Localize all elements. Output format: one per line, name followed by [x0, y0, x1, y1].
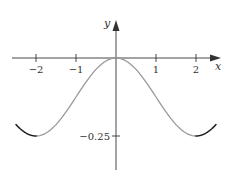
x-tick-label: 1 — [153, 64, 159, 75]
x-axis-label: x — [215, 60, 222, 73]
series-curve-right-end — [196, 125, 216, 136]
y-axis-arrow-icon — [113, 20, 120, 31]
series-curve-left-end — [16, 125, 36, 136]
x-tick-label: −1 — [69, 64, 84, 75]
x-tick-label: −2 — [29, 64, 44, 75]
y-tick-label: −0.25 — [79, 131, 110, 142]
y-axis-label: y — [103, 17, 111, 30]
chart: x y −2−112 −0.25 — [0, 0, 235, 175]
axes: x y — [12, 17, 222, 170]
x-tick-label: 2 — [193, 64, 199, 75]
x-ticks: −2−112 — [29, 54, 200, 75]
y-ticks: −0.25 — [79, 131, 120, 142]
